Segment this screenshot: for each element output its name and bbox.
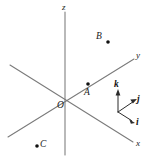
axis-line-x — [10, 65, 133, 142]
unit-vector-arrowhead-k — [116, 89, 121, 95]
point-dot-a — [86, 82, 90, 86]
unit-vector-arrowhead-i — [129, 119, 135, 124]
point-dot-b — [106, 40, 110, 44]
unit-vector-line-i — [118, 112, 132, 121]
unit-vector-line-j — [118, 102, 134, 113]
points-group — [35, 40, 110, 148]
figure-canvas — [0, 0, 147, 162]
coordinate-axes-figure: z y x O A B C k j i — [0, 0, 147, 162]
origin-label: O — [57, 101, 64, 111]
axis-label-z: z — [62, 3, 66, 12]
point-label-a: A — [84, 88, 90, 98]
unit-vectors-group — [116, 89, 137, 124]
point-label-c: C — [40, 140, 46, 150]
axis-label-x: x — [136, 139, 140, 148]
point-label-b: B — [96, 32, 102, 42]
axis-line-y — [8, 59, 134, 137]
unit-vector-label-k: k — [114, 80, 119, 90]
unit-vector-label-i: i — [136, 118, 139, 128]
point-dot-c — [35, 144, 39, 148]
axis-label-y: y — [136, 51, 140, 60]
unit-vector-label-j: j — [137, 95, 140, 105]
